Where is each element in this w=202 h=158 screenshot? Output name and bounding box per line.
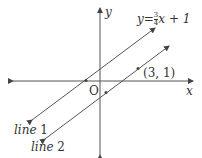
origin-label: O xyxy=(89,85,99,97)
x-axis-label: x xyxy=(186,85,193,97)
point-on-line-2 xyxy=(105,91,108,94)
line-1-label: line 1 xyxy=(14,124,48,136)
point-3-1 xyxy=(137,67,140,70)
line-2-label: line 2 xyxy=(31,141,65,153)
point-label: (3, 1) xyxy=(143,67,175,79)
point-on-line-1 xyxy=(85,79,88,82)
line-1 xyxy=(32,28,155,120)
y-axis-label: y xyxy=(105,6,112,18)
line-1-equation: y=34x + 1 xyxy=(137,12,190,27)
coordinate-diagram: y x O y=34x + 1 (3, 1) line 1 line 2 xyxy=(0,0,202,158)
